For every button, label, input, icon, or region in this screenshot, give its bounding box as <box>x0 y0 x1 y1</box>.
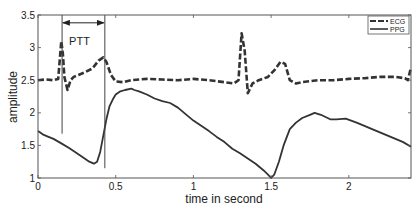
legend: ECG PPG <box>368 16 409 34</box>
y-axis-label: amplitude <box>6 71 20 123</box>
y-tick-label: 2.5 <box>21 75 35 86</box>
y-tick-label: 3 <box>29 42 35 53</box>
ecg-line <box>38 33 411 93</box>
x-tick-label: 0 <box>35 181 41 192</box>
ecg-ppg-chart: PTT 00.511.5211.522.533.5 time in second… <box>0 0 420 210</box>
y-tick-label: 3.5 <box>21 10 35 21</box>
ptt-label: PTT <box>69 35 90 47</box>
series-layer <box>38 33 411 178</box>
x-tick-label: 1.5 <box>264 181 278 192</box>
x-tick-label: 1 <box>191 181 197 192</box>
y-tick-label: 1 <box>29 173 35 184</box>
x-tick-label: 2 <box>346 181 352 192</box>
ppg-line <box>38 89 411 178</box>
axes-frame <box>38 15 411 178</box>
legend-ppg-label: PPG <box>390 26 405 33</box>
x-axis-label: time in second <box>185 192 262 206</box>
chart-svg: PTT 00.511.5211.522.533.5 time in second… <box>0 0 420 210</box>
y-tick-label: 1.5 <box>21 140 35 151</box>
legend-ecg-label: ECG <box>390 18 405 25</box>
x-tick-label: 0.5 <box>109 181 123 192</box>
annotation-layer: PTT <box>62 15 105 168</box>
y-tick-label: 2 <box>29 107 35 118</box>
